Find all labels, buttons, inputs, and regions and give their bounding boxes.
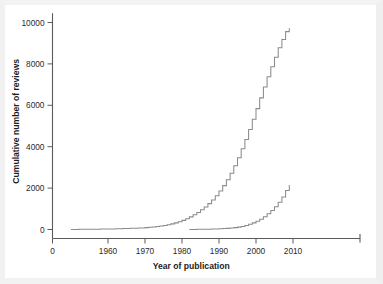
x-axis-title: Year of publication: [153, 261, 230, 271]
x-tick-label: 2000: [247, 246, 266, 256]
x-tick-label: 1970: [136, 246, 155, 256]
x-tick-label: 1990: [210, 246, 229, 256]
y-axis-title: Cumulative number of reviews: [11, 59, 21, 184]
y-tick-label: 4000: [26, 142, 45, 152]
x-tick-label: 1980: [173, 246, 192, 256]
y-tick-label: 0: [40, 225, 45, 235]
y-tick-label: 10000: [21, 18, 44, 28]
y-tick-label: 2000: [26, 183, 45, 193]
cumulative-reviews-chart: 0200040006000800010000019601970198019902…: [0, 0, 383, 284]
x-tick-label: 2010: [284, 246, 303, 256]
x-tick-label: 1960: [99, 246, 118, 256]
y-tick-label: 8000: [26, 59, 45, 69]
series-line-all-reviews: [71, 28, 289, 229]
x-tick-label: 0: [50, 246, 55, 256]
y-tick-label: 6000: [26, 100, 45, 110]
chart-figure: 0200040006000800010000019601970198019902…: [0, 0, 383, 284]
